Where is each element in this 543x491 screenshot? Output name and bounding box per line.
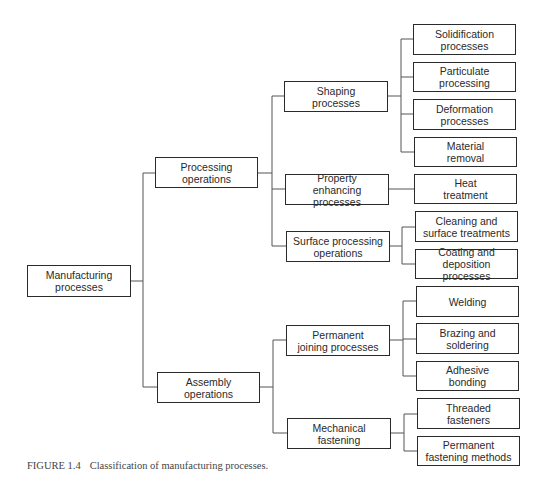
- node-assembly-operations: Assembly operations: [157, 372, 260, 403]
- node-brazing-soldering: Brazing and soldering: [416, 323, 519, 354]
- node-heat-treatment: Heat treatment: [414, 174, 517, 204]
- node-solidification-processes: Solidification processes: [413, 24, 516, 55]
- node-cleaning-surface-treatments: Cleaning and surface treatments: [415, 211, 518, 242]
- node-surface-processing-operations: Surface processing operations: [286, 231, 390, 262]
- figure-caption: FIGURE 1.4Classification of manufacturin…: [27, 460, 268, 471]
- caption-text: Classification of manufacturing processe…: [90, 460, 268, 471]
- node-permanent-joining-processes: Permanent joining processes: [286, 325, 390, 356]
- node-permanent-fastening-methods: Permanent fastening methods: [417, 436, 520, 466]
- node-threaded-fasteners: Threaded fasteners: [417, 398, 520, 429]
- node-welding: Welding: [416, 286, 519, 317]
- node-particulate-processing: Particulate processing: [413, 62, 516, 92]
- node-manufacturing-processes: Manufacturing processes: [27, 265, 131, 297]
- node-shaping-processes: Shaping processes: [284, 81, 388, 112]
- figure-number: FIGURE 1.4: [27, 460, 81, 471]
- node-material-removal: Material removal: [414, 137, 517, 167]
- manufacturing-classification-diagram: Manufacturing processes Processing opera…: [0, 0, 543, 491]
- node-mechanical-fastening: Mechanical fastening: [287, 418, 391, 449]
- node-adhesive-bonding: Adhesive bonding: [416, 361, 519, 391]
- node-deformation-processes: Deformation processes: [413, 99, 516, 130]
- node-processing-operations: Processing operations: [155, 157, 258, 188]
- node-property-enhancing-processes: Property enhancing processes: [285, 174, 389, 205]
- node-coating-deposition-processes: Coating and deposition processes: [415, 249, 518, 279]
